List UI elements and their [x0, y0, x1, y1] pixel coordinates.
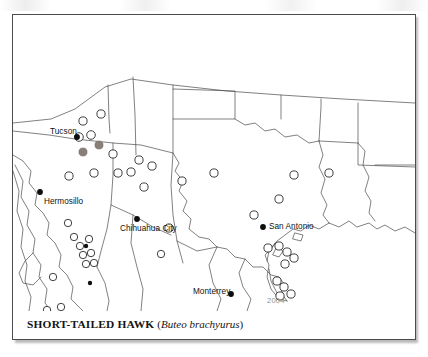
coast-baja-west	[13, 171, 31, 311]
caption-scientific-name: Buteo brachyurus	[161, 318, 240, 330]
coast-baja-east	[15, 165, 51, 311]
record-points-gray	[79, 141, 103, 156]
boundary-nm-co-east	[133, 77, 136, 155]
plate-caption: SHORT-TAILED HAWK (Buteo brachyurus)	[27, 318, 243, 330]
caption-close-paren: )	[240, 318, 244, 330]
boundary-la-coast	[329, 221, 415, 233]
boundary-ok-east	[319, 99, 321, 141]
city-label-chihuahua-city: Chihuahua City	[120, 224, 177, 233]
boundary-la-north	[319, 141, 358, 143]
distribution-map-svg	[13, 15, 415, 311]
city-dot-san-antonio	[260, 224, 266, 230]
caption-common-name: SHORT-TAILED HAWK	[27, 318, 154, 330]
water-label-2004: 2004	[267, 296, 285, 305]
boundary-nuevo-leon	[209, 247, 221, 311]
boundary-tx-la	[319, 141, 329, 223]
political-boundaries	[13, 77, 415, 311]
scan-artifact	[0, 0, 428, 11]
page-root: Tucson Hermosillo Chihuahua City San Ant…	[0, 0, 428, 357]
city-label-monterrey: Monterrey	[193, 287, 230, 296]
boundary-chihuahua-coahuila	[171, 153, 183, 263]
bay-matagorda	[293, 233, 303, 241]
map-canvas	[13, 15, 415, 311]
city-label-hermosillo: Hermosillo	[44, 197, 83, 206]
city-label-san-antonio: San Antonio	[269, 222, 314, 231]
city-dot-chihuahua-city	[134, 216, 140, 222]
boundary-sonora-chihuahua	[97, 143, 113, 267]
boundary-ok-south	[235, 119, 319, 143]
boundary-sinaloa	[97, 267, 109, 311]
city-label-tucson: Tucson	[50, 127, 77, 136]
boundary-north-arc	[13, 79, 415, 123]
city-dot-hermosillo	[37, 189, 43, 195]
boundary-ar-east	[358, 103, 415, 167]
map-plate: Tucson Hermosillo Chihuahua City San Ant…	[12, 14, 416, 340]
coast-texas-gulf	[265, 223, 329, 301]
boundary-la-mississippi	[358, 143, 375, 221]
boundary-ok-panhandle	[173, 89, 235, 119]
city-markers	[37, 134, 266, 297]
boundary-tamaulipas-west	[239, 259, 251, 311]
boundary-az-nm	[108, 85, 110, 133]
coast-baja-south-lobe	[19, 253, 41, 285]
boundary-coah-south	[177, 241, 217, 251]
